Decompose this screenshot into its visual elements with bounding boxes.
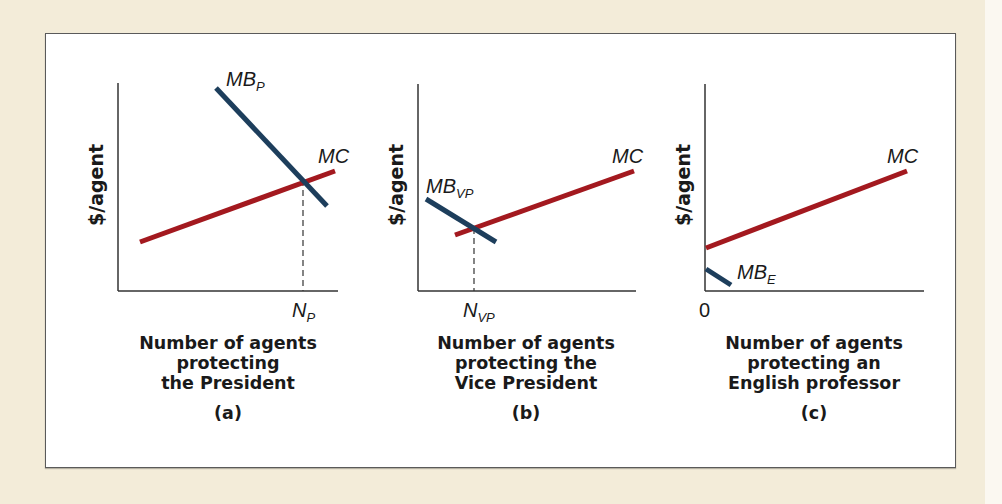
caption-line: Number of agents bbox=[139, 333, 317, 353]
caption-line: protecting the bbox=[455, 353, 597, 373]
caption-line: the President bbox=[161, 373, 295, 393]
x-marker: NP bbox=[292, 299, 315, 325]
panel-letter: (a) bbox=[98, 403, 358, 423]
x-marker: NVP bbox=[463, 299, 495, 325]
y-axis-label: $/agent bbox=[672, 144, 694, 226]
caption-line: Number of agents bbox=[725, 333, 903, 353]
caption-line: protecting bbox=[176, 353, 279, 373]
caption-a: Number of agents protecting the Presiden… bbox=[98, 333, 358, 423]
mc-curve bbox=[706, 171, 907, 248]
diagram-canvas: $/agent MBP MC NP $/agent MBVP MC NVP $/… bbox=[0, 0, 1002, 504]
y-axis-label: $/agent bbox=[85, 144, 107, 226]
mc-label: MC bbox=[887, 145, 919, 167]
origin-label: 0 bbox=[699, 299, 710, 321]
panel-letter: (c) bbox=[684, 403, 944, 423]
mb-label: MBVP bbox=[426, 175, 474, 201]
caption-line: English professor bbox=[728, 373, 900, 393]
caption-b: Number of agents protecting the Vice Pre… bbox=[396, 333, 656, 423]
mb-curve bbox=[216, 88, 327, 206]
panel-letter: (b) bbox=[396, 403, 656, 423]
mc-label: MC bbox=[318, 145, 350, 167]
y-axis-label: $/agent bbox=[385, 144, 407, 226]
mc-label: MC bbox=[612, 145, 644, 167]
caption-c: Number of agents protecting an English p… bbox=[684, 333, 944, 423]
chart-a: $/agent MBP MC NP bbox=[85, 68, 350, 325]
chart-b: $/agent MBVP MC NVP bbox=[385, 84, 644, 325]
caption-line: protecting an bbox=[747, 353, 881, 373]
caption-line: Vice President bbox=[455, 373, 598, 393]
mb-label: MBP bbox=[226, 68, 265, 94]
mb-curve bbox=[706, 269, 731, 285]
caption-line: Number of agents bbox=[437, 333, 615, 353]
chart-c: $/agent MBE MC 0 bbox=[672, 84, 924, 321]
mb-label: MBE bbox=[737, 261, 776, 287]
mb-curve bbox=[426, 199, 496, 242]
mc-curve bbox=[455, 171, 634, 235]
